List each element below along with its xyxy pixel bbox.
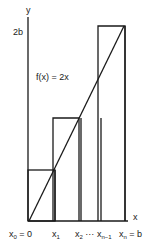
y-tick-2b: 2b [13, 28, 23, 37]
riemann-sum-diagram [0, 0, 156, 247]
x-tick-x0: x0 = 0 [9, 230, 32, 239]
rectangle-3 [98, 26, 125, 221]
function-label: f(x) = 2x [36, 73, 69, 82]
x-tick-x2: x2 ··· [75, 230, 94, 239]
function-line [29, 26, 124, 221]
rectangle-2 [53, 118, 79, 221]
x-tick-xn-1: xn−1 [97, 230, 112, 239]
x-tick-xn: xn = b [119, 230, 142, 239]
y-axis-label: y [26, 6, 31, 15]
x-tick-x1: x1 [52, 230, 60, 239]
x-axis-label: x [133, 213, 138, 222]
